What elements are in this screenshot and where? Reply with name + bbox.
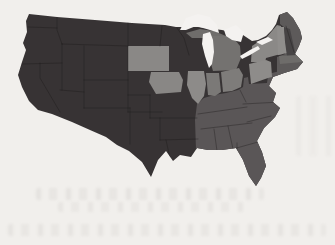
ghost-text-smudge <box>58 202 244 212</box>
ghost-text-smudge <box>36 188 264 200</box>
scanned-page <box>0 0 335 245</box>
state-indiana <box>206 73 221 96</box>
ghost-text-smudge <box>296 96 334 156</box>
state-south-dakota <box>128 46 169 71</box>
ghost-text-smudge <box>8 224 326 236</box>
state-iowa <box>149 72 183 94</box>
